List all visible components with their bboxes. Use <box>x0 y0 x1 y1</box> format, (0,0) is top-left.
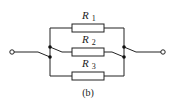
resistor-r1 <box>72 24 104 32</box>
junction-dot <box>48 45 52 49</box>
label-r1: R1 <box>81 9 96 23</box>
left-terminal <box>10 50 14 54</box>
junction-dot <box>122 45 126 49</box>
r2-wire-right <box>112 52 124 57</box>
junction-dot <box>48 55 52 59</box>
circuit-diagram: R1 R2 R3 (b) <box>0 0 174 105</box>
r2-wire-left <box>50 47 62 52</box>
figure-caption: (b) <box>82 87 94 99</box>
right-terminal <box>161 50 165 54</box>
label-r3: R3 <box>81 57 96 71</box>
junction-dot <box>122 55 126 59</box>
label-r2: R2 <box>81 33 96 47</box>
resistor-r2 <box>72 48 104 56</box>
resistor-r3 <box>72 72 104 80</box>
right-switch-blade <box>124 47 136 52</box>
left-switch-blade <box>38 52 50 57</box>
